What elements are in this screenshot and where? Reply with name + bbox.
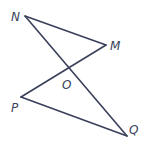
point-label-n: N <box>11 10 20 24</box>
point-label-q: Q <box>129 123 138 137</box>
geometry-diagram: N M O P Q <box>0 0 144 146</box>
point-label-o: O <box>62 78 71 92</box>
point-label-p: P <box>11 101 19 115</box>
point-label-m: M <box>110 39 121 53</box>
